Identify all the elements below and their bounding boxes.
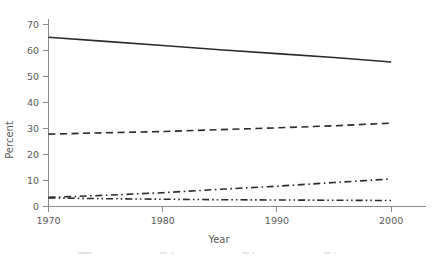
y-axis-ticks: 010203040506070 [27,19,49,212]
y-tick-label: 40 [27,97,39,108]
chart-canvas: 010203040506070 1970198019902000 Percent… [0,0,438,258]
series-line-4 [49,198,392,201]
x-tick-label: 2000 [379,215,403,226]
x-tick-label: 1970 [36,215,60,226]
y-tick-label: 50 [27,71,39,82]
line-chart-figure: 010203040506070 1970198019902000 Percent… [0,0,438,258]
y-tick-label: 10 [27,175,39,186]
y-axis-title: Percent [4,121,15,159]
x-tick-label: 1980 [151,215,175,226]
x-tick-label: 1990 [265,215,289,226]
x-axis-title: Year [207,234,230,245]
y-tick-label: 20 [27,149,39,160]
y-tick-label: 60 [27,45,39,56]
y-tick-label: 30 [27,123,39,134]
y-tick-label: 0 [33,201,39,212]
series-line-3 [49,179,392,197]
series-line-1 [49,37,392,62]
x-axis-ticks: 1970198019902000 [36,207,403,227]
y-tick-label: 70 [27,19,39,30]
series-line-2 [49,123,392,134]
data-series-group [49,37,392,200]
